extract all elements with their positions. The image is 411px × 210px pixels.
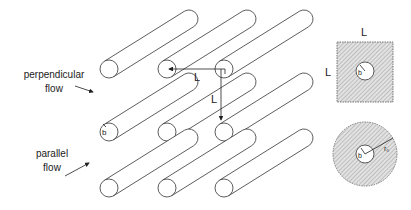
parallel-flow-label-1: parallel <box>36 148 68 159</box>
circle-outer-radius-label: r₀ <box>384 145 389 152</box>
cylinder-row-3 <box>100 73 313 141</box>
perpendicular-flow-label-2: flow <box>45 83 64 94</box>
parallel-flow-arrow <box>65 163 89 176</box>
square-radius-label: b <box>358 69 362 76</box>
fiber-array-diagram: L L b perpendicular flow parallel flow b… <box>0 0 411 210</box>
parallel-flow-label-2: flow <box>43 162 62 173</box>
perpendicular-flow-label-1: perpendicular <box>24 69 85 80</box>
circular-unit-cell: b r₀ <box>333 122 397 186</box>
circle-inner-radius-label: b <box>358 152 362 159</box>
square-left-label: L <box>325 66 331 78</box>
perpendicular-flow-arrow <box>75 86 93 92</box>
square-top-label: L <box>361 26 367 38</box>
radius-b-label: b <box>102 128 107 137</box>
cylinder-row-4 <box>100 129 313 197</box>
spacing-vertical-label: L <box>211 93 217 105</box>
square-unit-cell: b L L <box>325 26 393 102</box>
spacing-horizontal-label: L <box>194 71 200 83</box>
